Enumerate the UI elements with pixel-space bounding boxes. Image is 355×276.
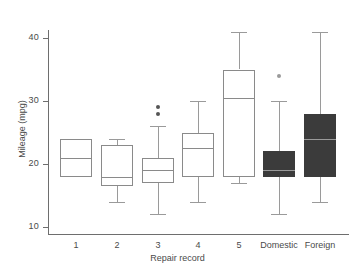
boxplot-figure: 10203040 12345DomesticForeign Repair rec… xyxy=(0,0,355,276)
whisker-lower xyxy=(158,183,159,215)
x-axis-title: Repair record xyxy=(0,253,355,263)
median-line xyxy=(304,139,336,140)
median-line xyxy=(101,177,133,178)
x-tick-label: Foreign xyxy=(305,240,336,250)
y-tick-label: 10 xyxy=(29,221,39,231)
x-tick-label: 3 xyxy=(155,240,160,250)
x-tick-label: 2 xyxy=(114,240,119,250)
median-line xyxy=(223,98,255,99)
box xyxy=(223,70,255,177)
whisker-cap-upper xyxy=(231,32,247,33)
median-line xyxy=(60,158,92,159)
y-axis-title: Mileage (mpg) xyxy=(17,79,27,179)
whisker-upper xyxy=(279,101,280,151)
x-tick-label: Domestic xyxy=(260,240,298,250)
box xyxy=(182,133,214,177)
whisker-cap-upper xyxy=(190,101,206,102)
whisker-cap-upper xyxy=(271,101,287,102)
box xyxy=(263,151,295,176)
whisker-upper xyxy=(239,32,240,70)
y-tick-mark xyxy=(43,164,48,165)
whisker-upper xyxy=(320,32,321,114)
y-tick-mark xyxy=(43,38,48,39)
y-tick-mark xyxy=(43,227,48,228)
whisker-upper xyxy=(198,101,199,133)
y-tick-label: 40 xyxy=(29,32,39,42)
whisker-cap-upper xyxy=(312,32,328,33)
whisker-cap-lower xyxy=(190,202,206,203)
whisker-upper xyxy=(158,126,159,158)
whisker-cap-upper xyxy=(109,139,125,140)
y-tick-label: 30 xyxy=(29,95,39,105)
outlier-point xyxy=(156,105,160,109)
whisker-cap-lower xyxy=(150,214,166,215)
whisker-cap-lower xyxy=(312,202,328,203)
whisker-cap-upper xyxy=(150,126,166,127)
median-line xyxy=(263,170,295,171)
x-tick-label: 1 xyxy=(73,240,78,250)
box xyxy=(304,114,336,177)
x-tick-label: 4 xyxy=(195,240,200,250)
whisker-lower xyxy=(198,177,199,202)
y-tick-mark xyxy=(43,101,48,102)
y-tick-label: 20 xyxy=(29,158,39,168)
box xyxy=(101,145,133,186)
whisker-cap-lower xyxy=(231,183,247,184)
y-axis-line xyxy=(48,30,49,235)
whisker-lower xyxy=(320,177,321,202)
x-axis-line xyxy=(48,234,349,235)
outlier-point xyxy=(156,112,160,116)
whisker-cap-lower xyxy=(271,214,287,215)
median-line xyxy=(142,170,174,171)
whisker-lower xyxy=(117,186,118,202)
median-line xyxy=(182,148,214,149)
whisker-lower xyxy=(279,177,280,215)
whisker-cap-lower xyxy=(109,202,125,203)
x-tick-label: 5 xyxy=(236,240,241,250)
outlier-point xyxy=(277,74,281,78)
